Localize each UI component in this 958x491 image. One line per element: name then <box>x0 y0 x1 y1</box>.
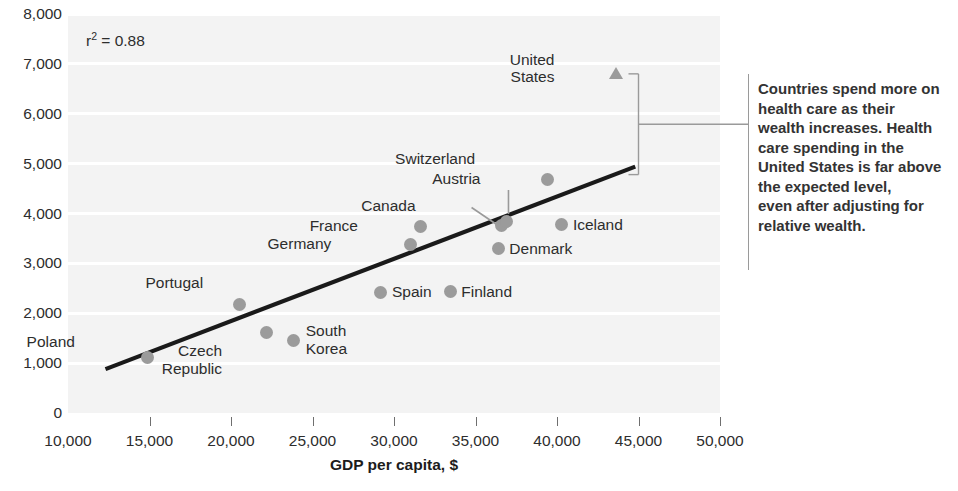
gridline <box>68 112 720 115</box>
x-tick-label: 15,000 <box>105 433 195 449</box>
data-label-france: France <box>310 217 358 234</box>
annotation-divider <box>748 74 749 270</box>
y-axis: 01,0002,0003,0004,0005,0006,0007,0008,00… <box>0 0 62 440</box>
r-squared-value: = 0.88 <box>101 32 145 49</box>
y-tick-label: 8,000 <box>0 6 62 22</box>
gridline <box>68 262 720 265</box>
data-point-switzerland[interactable] <box>541 173 554 186</box>
gridline <box>68 62 720 65</box>
x-tick-mark <box>557 417 558 426</box>
data-label-spain: Spain <box>392 283 432 300</box>
x-axis-title: GDP per capita, $ <box>68 456 720 474</box>
data-point-poland[interactable] <box>141 351 154 364</box>
y-tick-label: 6,000 <box>0 106 62 122</box>
data-label-united-states: United States <box>510 51 555 86</box>
data-label-portugal: Portugal <box>145 274 203 291</box>
gridline <box>68 312 720 315</box>
chart-figure: 01,0002,0003,0004,0005,0006,0007,0008,00… <box>0 0 958 491</box>
x-tick-mark <box>313 417 314 426</box>
data-label-poland: Poland <box>27 333 75 350</box>
x-tick-label: 40,000 <box>512 433 602 449</box>
y-tick-label: 3,000 <box>0 255 62 271</box>
x-tick-label: 50,000 <box>675 433 765 449</box>
x-tick-label: 20,000 <box>186 433 276 449</box>
data-label-austria: Austria <box>432 170 480 187</box>
x-axis: 10,00015,00020,00025,00030,00035,00040,0… <box>0 417 958 447</box>
data-label-czech-republic: Czech Republic <box>162 342 222 377</box>
x-tick-mark <box>476 417 477 426</box>
x-tick-label: 25,000 <box>268 433 358 449</box>
y-tick-label: 1,000 <box>0 355 62 371</box>
data-label-germany: Germany <box>268 235 332 252</box>
data-label-finland: Finland <box>461 283 512 300</box>
annotation-text: Countries spend more on health care as t… <box>758 79 950 235</box>
data-label-iceland: Iceland <box>573 216 623 233</box>
data-point-south-korea[interactable] <box>287 334 300 347</box>
data-point-united-states[interactable] <box>609 67 623 79</box>
y-tick-label: 5,000 <box>0 156 62 172</box>
x-tick-label: 35,000 <box>431 433 521 449</box>
y-tick-label: 4,000 <box>0 206 62 222</box>
x-tick-label: 10,000 <box>23 433 113 449</box>
x-tick-mark <box>720 417 721 426</box>
r-squared-exponent: 2 <box>91 30 97 42</box>
r-squared-annotation: r2 = 0.88 <box>86 30 145 50</box>
y-tick-label: 2,000 <box>0 305 62 321</box>
x-tick-label: 45,000 <box>594 433 684 449</box>
x-tick-mark <box>639 417 640 426</box>
data-label-switzerland: Switzerland <box>395 150 475 167</box>
y-tick-label: 7,000 <box>0 56 62 72</box>
data-label-canada: Canada <box>361 197 415 214</box>
data-point-portugal[interactable] <box>233 298 246 311</box>
gridline <box>68 13 720 16</box>
data-point-finland[interactable] <box>444 285 457 298</box>
x-tick-label: 30,000 <box>349 433 439 449</box>
data-label-south-korea: South Korea <box>306 322 347 357</box>
gridline <box>68 162 720 165</box>
data-label-denmark: Denmark <box>509 240 572 257</box>
data-point-czech-republic[interactable] <box>260 326 273 339</box>
x-tick-mark <box>150 417 151 426</box>
x-tick-mark <box>231 417 232 426</box>
x-tick-mark <box>394 417 395 426</box>
data-point-germany[interactable] <box>404 238 417 251</box>
